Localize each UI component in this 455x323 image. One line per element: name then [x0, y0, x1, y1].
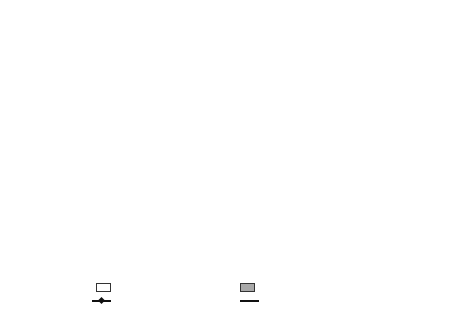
legend-item-social-security: [92, 297, 115, 304]
gray-swatch-icon: [240, 283, 255, 292]
legend-item-tax: [240, 297, 263, 304]
legend-item-gini-after-tax: [240, 283, 259, 292]
line-series-group: [0, 0, 455, 323]
legend-item-gini-market-income: [96, 283, 115, 292]
plain-line-icon: [240, 297, 259, 304]
line-marker-icon: [92, 297, 111, 304]
chart-container: [0, 0, 455, 323]
white-swatch-icon: [96, 283, 111, 292]
